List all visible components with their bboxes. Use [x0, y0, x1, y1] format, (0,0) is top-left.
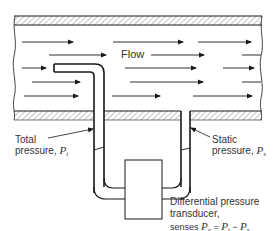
- fluid-level-left: [94, 147, 104, 150]
- flow-stubs: [242, 55, 261, 82]
- break-line-left: [13, 16, 15, 120]
- total-pressure-label: Total pressure, Pt: [15, 134, 68, 160]
- pipe-wall-bottom: [14, 111, 262, 120]
- transducer-label: Differential pressure transducer, senses…: [170, 196, 259, 231]
- break-line-right: [260, 16, 262, 120]
- total-pressure-line2: pressure, Pt: [15, 145, 68, 160]
- leader-static-pressure: [191, 128, 210, 137]
- transducer-line1: Differential pressure: [170, 196, 259, 208]
- flow-label: Flow: [121, 49, 144, 60]
- pitot-tube: [54, 64, 104, 193]
- transducer-line2: transducer,: [170, 208, 259, 220]
- static-tap: [181, 111, 190, 193]
- static-pressure-label: Static pressure, Ps: [212, 134, 266, 160]
- differential-pressure-transducer: [125, 160, 162, 219]
- static-pressure-line2: pressure, Ps: [212, 145, 266, 160]
- pipe-wall-top: [14, 16, 262, 25]
- u-tube-left: [94, 178, 125, 199]
- transducer-equation: senses Pv = Pt − Ps: [170, 220, 259, 231]
- fluid-level-right: [181, 148, 190, 150]
